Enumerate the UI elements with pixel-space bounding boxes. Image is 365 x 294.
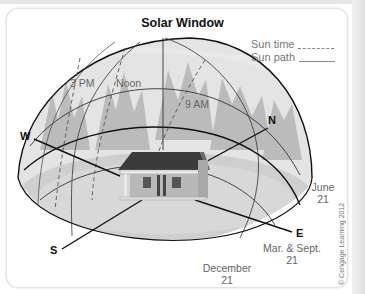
direction-east: E: [296, 227, 303, 239]
label-june-21: June 21: [310, 181, 336, 205]
direction-west: W: [20, 130, 30, 142]
label-december-21: December 21: [200, 262, 254, 286]
house: [118, 152, 210, 200]
direction-north: N: [268, 114, 276, 126]
label-december-day: 21: [200, 274, 254, 286]
dashed-line-swatch: [298, 48, 334, 49]
solid-line-swatch: [299, 61, 335, 62]
label-3pm: 3 PM: [70, 77, 95, 89]
legend-item-sun-path: Sun path: [251, 51, 335, 64]
copyright-credit: © Cengage Learning 2012: [338, 203, 345, 285]
legend-label: Sun path: [251, 51, 295, 64]
legend: Sun time Sun path: [251, 38, 335, 64]
legend-label: Sun time: [251, 38, 294, 51]
label-equinox-day: 21: [262, 254, 322, 266]
label-june-day: 21: [310, 193, 336, 205]
figure-title: Solar Window: [0, 16, 365, 30]
label-noon: Noon: [116, 77, 141, 89]
label-equinox: Mar. & Sept.: [262, 242, 322, 254]
label-9am: 9 AM: [185, 98, 209, 110]
label-equinox-21: Mar. & Sept. 21: [262, 242, 322, 266]
direction-south: S: [50, 244, 57, 256]
legend-item-sun-time: Sun time: [251, 38, 335, 51]
label-december: December: [200, 262, 254, 274]
label-june: June: [310, 181, 336, 193]
